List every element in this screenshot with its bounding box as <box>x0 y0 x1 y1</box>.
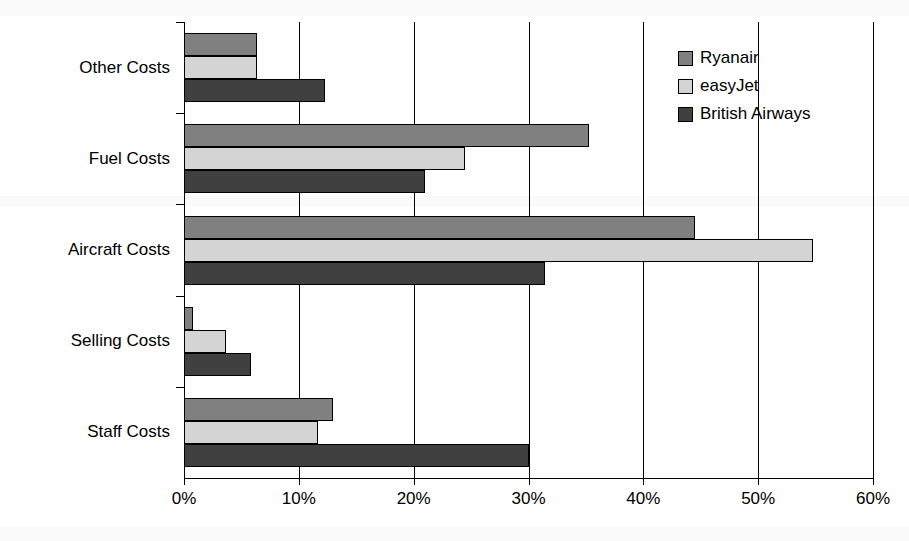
x-axis-tick <box>643 478 644 485</box>
legend-swatch-icon <box>678 79 693 94</box>
bar <box>184 444 529 467</box>
x-axis-tick <box>299 478 300 485</box>
bar <box>184 307 193 330</box>
y-axis-tick <box>176 113 184 114</box>
y-axis-tick <box>176 296 184 297</box>
y-axis-tick <box>176 387 184 388</box>
x-axis-tick <box>873 478 874 485</box>
bar <box>184 353 251 376</box>
x-axis-tick-label: 0% <box>172 489 197 509</box>
x-axis-tick-label: 20% <box>397 489 431 509</box>
bar <box>184 33 257 56</box>
legend-item: British Airways <box>678 100 903 128</box>
chart-legend: RyanaireasyJetBritish Airways <box>678 44 903 128</box>
bar <box>184 56 257 79</box>
x-axis-tick <box>529 478 530 485</box>
bar <box>184 147 465 170</box>
legend-item-label: British Airways <box>700 104 811 124</box>
x-axis-tick-label: 30% <box>511 489 545 509</box>
bar <box>184 262 545 285</box>
y-axis-category-label: Fuel Costs <box>0 149 170 169</box>
x-axis-tick <box>758 478 759 485</box>
legend-item: Ryanair <box>678 44 903 72</box>
scan-artifact <box>0 527 909 541</box>
x-axis-tick-label: 50% <box>741 489 775 509</box>
legend-item-label: easyJet <box>700 76 759 96</box>
y-axis-line <box>184 22 185 479</box>
y-axis-tick <box>176 22 184 23</box>
x-axis-tick <box>184 478 185 485</box>
bar <box>184 79 325 102</box>
y-axis-category-label: Staff Costs <box>0 422 170 442</box>
bar <box>184 239 813 262</box>
legend-swatch-icon <box>678 107 693 122</box>
y-axis-category-label: Aircraft Costs <box>0 240 170 260</box>
y-axis-category-label: Selling Costs <box>0 331 170 351</box>
x-axis-tick-label: 60% <box>856 489 890 509</box>
scan-artifact <box>0 0 909 16</box>
x-axis-tick <box>414 478 415 485</box>
y-axis-category-label: Other Costs <box>0 58 170 78</box>
bar <box>184 170 425 193</box>
legend-item: easyJet <box>678 72 903 100</box>
y-axis-tick <box>176 204 184 205</box>
bar <box>184 421 318 444</box>
bar <box>184 398 333 421</box>
x-axis-tick-label: 10% <box>282 489 316 509</box>
x-axis-tick-label: 40% <box>626 489 660 509</box>
legend-item-label: Ryanair <box>700 48 759 68</box>
bar <box>184 216 695 239</box>
bar <box>184 124 589 147</box>
grouped-bar-chart: 0%10%20%30%40%50%60% Other CostsFuel Cos… <box>0 0 909 541</box>
legend-swatch-icon <box>678 51 693 66</box>
bar <box>184 330 226 353</box>
